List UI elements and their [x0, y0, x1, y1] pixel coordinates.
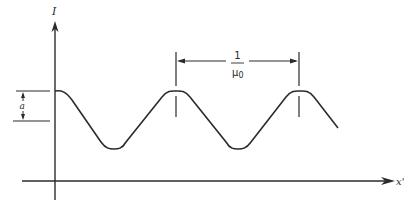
period-dimension [176, 52, 299, 117]
waveform-diagram: I x' a 1 μ0 [0, 0, 409, 209]
period-numerator: 1 [234, 50, 240, 61]
x-axis-label: x' [396, 176, 404, 187]
y-axis-label: I [51, 5, 57, 18]
period-denominator: μ0 [232, 67, 243, 80]
arrow-right-icon [290, 59, 298, 64]
x-axis [22, 177, 395, 185]
period-denominator-sub: 0 [238, 71, 243, 80]
arrow-left-icon [177, 59, 185, 64]
arrow-down-icon [21, 114, 25, 120]
y-axis [52, 21, 59, 200]
waveform-curve [55, 91, 338, 149]
amplitude-label: a [20, 101, 25, 111]
arrow-up-icon [21, 92, 25, 98]
